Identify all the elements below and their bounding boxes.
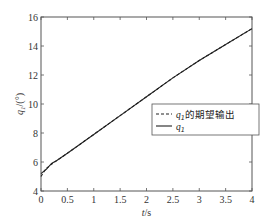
x-tick-label: 0 [39,194,44,205]
plot-area: 00.511.522.533.5446810121416t/sq1/(°)q1的… [14,12,259,219]
x-tick-label: 3 [197,194,202,205]
y-axis-label: q1/(°) [14,93,27,115]
x-tick-label: 0.5 [61,194,74,205]
x-tick-label: 2.5 [167,194,180,205]
x-tick-label: 2 [144,194,149,205]
series-line-1 [41,29,252,174]
y-tick-label: 16 [28,12,38,23]
x-tick-label: 1 [91,194,96,205]
x-tick-label: 3.5 [219,194,232,205]
series-line-0 [41,29,252,177]
y-tick-label: 6 [33,157,38,168]
y-tick-label: 12 [28,70,38,81]
x-tick-label: 1.5 [114,194,127,205]
y-tick-label: 10 [28,99,38,110]
chart: 00.511.522.533.5446810121416t/sq1/(°)q1的… [0,0,271,224]
y-tick-label: 4 [33,186,38,197]
y-tick-label: 8 [33,128,38,139]
x-axis-label: t/s [142,207,152,218]
y-tick-label: 14 [28,41,38,52]
x-tick-label: 4 [250,194,255,205]
